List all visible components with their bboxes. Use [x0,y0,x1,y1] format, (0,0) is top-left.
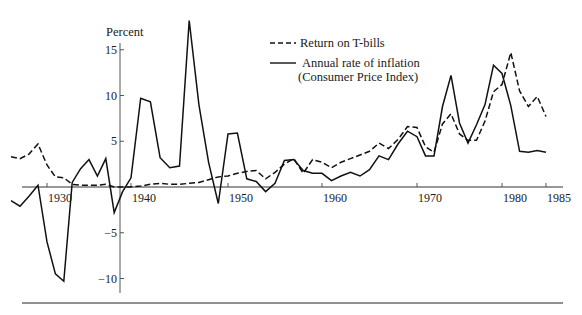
series-t-bills-line [11,53,546,188]
x-tick-label: 1940 [132,192,156,204]
y-axis [120,43,124,293]
y-axis-title: Percent [106,26,143,39]
legend-lines [270,43,296,63]
y-tick-label: −10 [87,273,117,285]
x-tick-label: 1980 [503,192,527,204]
y-tick-label: 5 [87,135,117,147]
series-inflation-line [11,21,546,282]
x-tick-label: 1930 [48,192,72,204]
y-tick-label: −5 [87,227,117,239]
x-tick-label: 1970 [418,192,442,204]
y-tick-label: 10 [87,90,117,102]
x-tick-label: 1950 [229,192,253,204]
x-tick-label: 1985 [547,192,571,204]
legend-label-inflation: Annual rate of inflation [302,57,420,70]
y-tick-label: 15 [87,44,117,56]
legend-label-inflation-sub: (Consumer Price Index) [298,71,418,84]
x-tick-label: 1960 [323,192,347,204]
legend-label-t-bills: Return on T-bills [300,37,385,50]
y-axis-ticks [120,50,124,279]
